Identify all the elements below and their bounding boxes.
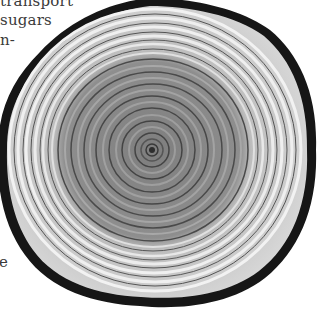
tree-ring-illustration xyxy=(0,0,326,310)
pith xyxy=(149,147,155,153)
